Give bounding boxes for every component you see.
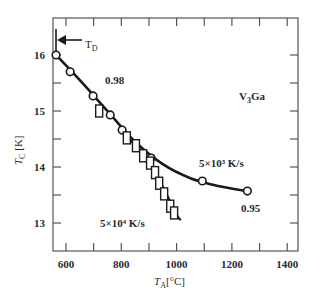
fraction-label-098: 0.98 [105,74,125,86]
fit-curves [56,55,247,220]
data-markers [52,51,251,219]
circle-marker [244,187,252,195]
x-tick-label: 1400 [276,258,299,270]
y-tick-label: 14 [34,161,46,173]
y-tick-label: 15 [34,105,46,117]
square-marker [161,188,168,200]
square-marker [171,207,178,219]
x-axis-title: TA[°C] [154,275,185,290]
circle-marker [199,177,207,185]
tc-vs-ta-chart: 60080010001200140013141516 TD 0.98 0.95 … [0,0,322,300]
y-tick-label: 16 [34,49,46,61]
material-label: V3Ga [239,90,266,105]
x-tick-label: 600 [58,258,75,270]
circle-marker [66,68,74,76]
circle-marker [106,111,114,119]
tick-labels: 60080010001200140013141516 [34,49,299,270]
square-marker [123,132,130,144]
fraction-label-095: 0.95 [241,202,261,214]
td-marker: TD [56,29,98,53]
rate-label-high: 5×10⁴ K/s [100,217,145,229]
x-tick-label: 1000 [166,258,189,270]
rate-label-low: 5×10³ K/s [199,157,244,169]
square-marker [132,140,139,152]
arrow-left-icon [57,35,66,45]
y-axis-title: TC [K] [12,136,27,166]
square-marker [140,150,147,162]
circle-marker [89,92,97,100]
td-label: TD [85,38,98,53]
y-tick-label: 13 [34,217,46,229]
circle-marker [52,51,60,59]
x-tick-label: 1200 [221,258,244,270]
x-tick-label: 800 [113,258,130,270]
square-marker [96,105,103,117]
